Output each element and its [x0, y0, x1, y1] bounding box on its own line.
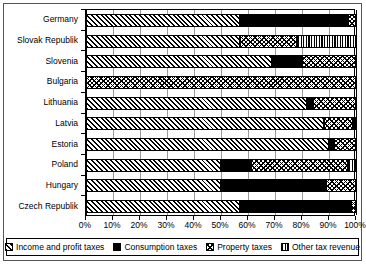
- bar-row: [86, 179, 354, 192]
- bar-segment-consumption-taxes: [221, 159, 251, 172]
- bar-segment-income-and-profit-taxes: [86, 138, 329, 151]
- bar-segment-income-and-profit-taxes: [86, 35, 240, 48]
- x-axis-label: 30%: [157, 220, 174, 231]
- vertical-stripe-swatch: [281, 243, 289, 251]
- bar-segment-other-tax-revenue: [353, 117, 356, 130]
- legend-label: Other tax revenue: [292, 242, 360, 252]
- y-axis-tick: [81, 175, 85, 176]
- legend-item[interactable]: Other tax revenue: [281, 242, 360, 252]
- bar-segment-income-and-profit-taxes: [86, 117, 324, 130]
- bar-segment-consumption-taxes: [240, 14, 348, 27]
- cross-dot-swatch: [206, 243, 214, 251]
- y-axis-label: Estoria: [52, 139, 78, 149]
- bar-segment-property-taxes: [324, 117, 354, 130]
- y-axis-tick: [81, 30, 85, 31]
- diagonal-hatch-swatch: [5, 243, 13, 251]
- solid-black-swatch: [113, 243, 121, 251]
- y-axis-label: Slovak Republik: [17, 35, 78, 45]
- stacked-bar-chart: GermanySlovak RepublikSloveniaBulgariaLi…: [0, 0, 366, 267]
- x-axis-label: 40%: [184, 220, 201, 231]
- bar-row: [86, 200, 354, 213]
- bar-row: [86, 35, 354, 48]
- bar-segment-property-taxes: [334, 138, 356, 151]
- x-axis-label: 60%: [238, 220, 255, 231]
- x-axis-label: 10%: [103, 220, 120, 231]
- bar-row: [86, 159, 354, 172]
- bar-segment-income-and-profit-taxes: [86, 97, 307, 110]
- bar-row: [86, 117, 354, 130]
- y-axis-label: Latvia: [55, 118, 78, 128]
- bar-segment-property-taxes: [348, 14, 356, 27]
- bar-segment-property-taxes: [240, 35, 297, 48]
- bar-segment-other-tax-revenue: [348, 159, 356, 172]
- y-axis-tick: [81, 154, 85, 155]
- y-axis-tick: [81, 133, 85, 134]
- bar-row: [86, 97, 354, 110]
- y-axis-label: Slovenia: [45, 56, 78, 66]
- x-axis-label: 90%: [319, 220, 336, 231]
- legend-item[interactable]: Property taxes: [206, 242, 272, 252]
- y-axis-tick: [81, 195, 85, 196]
- x-axis-label: 20%: [130, 220, 147, 231]
- legend-label: Property taxes: [217, 242, 272, 252]
- bar-segment-other-tax-revenue: [297, 35, 356, 48]
- bar-segment-consumption-taxes: [221, 179, 326, 192]
- bar-segment-property-taxes: [302, 55, 356, 68]
- x-axis-label: 100%: [344, 220, 366, 231]
- gridline-100: [356, 10, 357, 215]
- y-axis-label: Poland: [52, 159, 78, 169]
- bar-row: [86, 55, 354, 68]
- y-axis-label: Germany: [43, 14, 78, 24]
- y-axis-labels: GermanySlovak RepublikSloveniaBulgariaLi…: [0, 9, 82, 216]
- legend-item[interactable]: Consumption taxes: [113, 242, 197, 252]
- y-axis-tick: [81, 50, 85, 51]
- bar-segment-property-taxes: [313, 97, 356, 110]
- bar-segment-income-and-profit-taxes: [86, 159, 221, 172]
- bar-segment-property-taxes: [251, 159, 348, 172]
- legend-item[interactable]: Income and profit taxes: [5, 242, 104, 252]
- bar-row: [86, 14, 354, 27]
- y-axis-tick: [81, 71, 85, 72]
- chart-legend: Income and profit taxesConsumption taxes…: [6, 238, 359, 256]
- y-axis-tick: [81, 92, 85, 93]
- x-axis-label: 0%: [79, 220, 91, 231]
- bar-segment-property-taxes: [351, 200, 356, 213]
- y-axis-tick: [81, 113, 85, 114]
- legend-label: Income and profit taxes: [16, 242, 104, 252]
- y-axis-label: Hungary: [46, 180, 78, 190]
- y-axis-label: Lithuania: [43, 97, 78, 107]
- y-axis-tick: [81, 9, 85, 10]
- plot-area: [85, 9, 355, 216]
- bar-segment-income-and-profit-taxes: [86, 200, 240, 213]
- bar-row: [86, 138, 354, 151]
- legend-label: Consumption taxes: [124, 242, 197, 252]
- x-axis-label: 70%: [265, 220, 282, 231]
- x-axis-label: 50%: [211, 220, 228, 231]
- y-axis-label: Czech Republik: [18, 201, 78, 211]
- bar-segment-income-and-profit-taxes: [86, 55, 272, 68]
- bar-segment-consumption-taxes: [240, 200, 351, 213]
- bar-segment-consumption-taxes: [272, 55, 302, 68]
- bar-segment-property-taxes: [86, 76, 356, 89]
- x-axis-label: 80%: [292, 220, 309, 231]
- bar-rows: [86, 10, 354, 215]
- y-axis-label: Bulgaria: [47, 76, 78, 86]
- bar-segment-property-taxes: [326, 179, 356, 192]
- bar-segment-income-and-profit-taxes: [86, 14, 240, 27]
- bar-segment-income-and-profit-taxes: [86, 179, 221, 192]
- x-axis-labels: 0%10%20%30%40%50%60%70%80%90%100%: [0, 220, 366, 232]
- bar-row: [86, 76, 354, 89]
